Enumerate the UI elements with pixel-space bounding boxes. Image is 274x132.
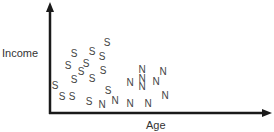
data-point-n: N — [144, 99, 151, 109]
data-point-s: S — [65, 61, 72, 71]
data-point-s: S — [89, 74, 96, 84]
y-axis — [46, 2, 54, 114]
data-point-s: S — [89, 47, 96, 57]
data-point-n: N — [126, 78, 133, 88]
data-point-n: N — [161, 91, 168, 101]
data-point-s: S — [52, 81, 59, 91]
data-point-s: S — [78, 67, 85, 77]
data-point-s: S — [59, 92, 66, 102]
data-point-s: S — [104, 38, 111, 48]
x-axis — [49, 109, 272, 117]
data-point-s: S — [99, 52, 106, 62]
data-point-s: S — [69, 92, 76, 102]
data-point-n: N — [111, 96, 118, 106]
x-axis-label: Age — [146, 119, 166, 131]
y-axis-label: Income — [2, 47, 38, 59]
data-point-s: S — [100, 66, 107, 76]
data-point-n: N — [138, 82, 145, 92]
data-point-s: S — [105, 86, 112, 96]
data-point-n: N — [126, 99, 133, 109]
data-point-s: S — [71, 49, 78, 59]
data-point-n: N — [152, 77, 159, 87]
x-axis-arrow-icon — [262, 109, 272, 117]
data-point-n: N — [98, 100, 105, 110]
data-point-s: S — [71, 75, 78, 85]
data-point-s: S — [86, 97, 93, 107]
y-axis-arrow-icon — [46, 2, 54, 12]
scatter-plot — [0, 0, 274, 132]
data-point-n: N — [159, 67, 166, 77]
